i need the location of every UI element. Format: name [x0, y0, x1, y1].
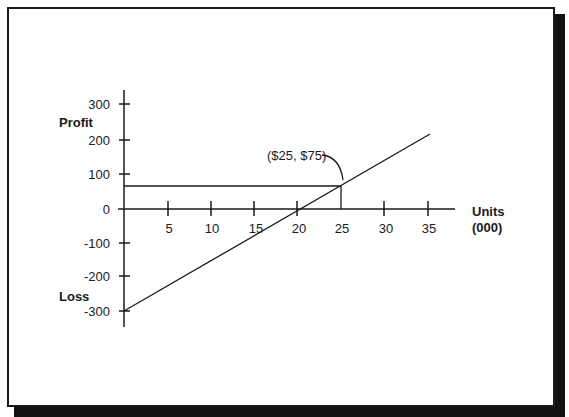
- y-tick-labels: 300 200 100 0 -100 -200 -300: [84, 97, 110, 319]
- y-tick-label: 300: [88, 97, 110, 112]
- y-tick-label: 200: [88, 133, 110, 148]
- y-tick-label: -300: [84, 304, 110, 319]
- callout-label: ($25, $75): [267, 148, 326, 163]
- x-tick-labels: 5 10 15 20 25 30 35: [165, 221, 436, 236]
- units-scale-label: (000): [472, 220, 502, 235]
- x-tick-label: 5: [165, 221, 172, 236]
- y-tick-label: 100: [88, 167, 110, 182]
- x-tick-label: 25: [335, 221, 349, 236]
- loss-label: Loss: [59, 289, 89, 304]
- profit-loss-chart: 300 200 100 0 -100 -200 -300 Profit Loss…: [0, 0, 569, 417]
- x-tick-label: 15: [249, 221, 263, 236]
- x-tick-label: 30: [379, 221, 393, 236]
- y-tick-label: -100: [84, 236, 110, 251]
- y-tick-label: -200: [84, 269, 110, 284]
- x-tick-label: 20: [292, 221, 306, 236]
- x-tick-label: 35: [422, 221, 436, 236]
- x-tick-label: 10: [205, 221, 219, 236]
- profit-label: Profit: [59, 115, 94, 130]
- y-tick-label: 0: [103, 202, 110, 217]
- units-label: Units: [472, 204, 505, 219]
